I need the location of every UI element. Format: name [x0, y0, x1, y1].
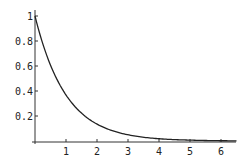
x-tick-label: 5	[187, 146, 193, 157]
axes	[32, 10, 236, 144]
plot-area: 123456 0.20.40.60.81	[0, 0, 246, 162]
x-tick-label: 3	[125, 146, 131, 157]
x-tick-label: 1	[63, 146, 69, 157]
y-tick-label: 1	[27, 11, 33, 22]
y-tick-label: 0.8	[15, 36, 33, 47]
x-tick-label: 2	[94, 146, 100, 157]
y-tick-label: 0.6	[15, 61, 33, 72]
y-tick-label: 0.2	[15, 111, 33, 122]
x-tick-label: 6	[218, 146, 224, 157]
y-tick-label: 0.4	[15, 86, 33, 97]
x-tick-label: 4	[156, 146, 162, 157]
exponential-decay-chart: 123456 0.20.40.60.81	[0, 0, 246, 162]
data-line	[35, 16, 237, 141]
